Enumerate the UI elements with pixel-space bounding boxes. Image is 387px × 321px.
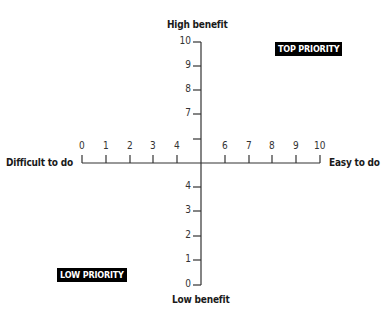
y-tick-label: 4: [185, 180, 191, 191]
low-priority-badge: LOW PRIORITY: [57, 268, 127, 282]
y-tick-label: 3: [185, 204, 191, 215]
x-tick-label: 4: [174, 140, 180, 151]
x-tick-label: 6: [222, 140, 228, 151]
x-tick-label: 9: [293, 140, 299, 151]
x-tick-label: 0: [79, 140, 85, 151]
x-tick-label: 8: [269, 140, 275, 151]
x-tick-label: 1: [103, 140, 109, 151]
y-tick-label: 10: [180, 35, 191, 46]
y-tick-label: 9: [185, 59, 191, 70]
y-axis-bottom-label: Low benefit: [172, 294, 230, 305]
x-tick-label: 7: [246, 140, 252, 151]
y-tick-label: 0: [185, 278, 191, 289]
x-tick-label: 3: [150, 140, 156, 151]
y-tick-label: 8: [185, 83, 191, 94]
x-tick-label: 10: [314, 140, 325, 151]
y-tick-label: 7: [185, 107, 191, 118]
x-axis-right-label: Easy to do: [329, 157, 380, 168]
top-priority-badge: TOP PRIORITY: [275, 42, 342, 56]
y-axis-top-label: High benefit: [167, 19, 228, 30]
y-tick-label: 1: [185, 253, 191, 264]
x-axis-left-label: Difficult to do: [6, 157, 73, 168]
x-tick-label: 2: [127, 140, 133, 151]
y-tick-label: 2: [185, 229, 191, 240]
